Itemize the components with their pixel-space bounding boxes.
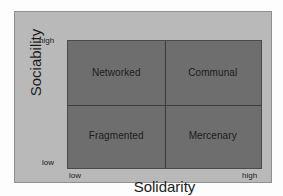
quadrant-mercenary[interactable]: Mercenary bbox=[165, 105, 262, 169]
quadrant-label: Fragmented bbox=[89, 131, 144, 141]
x-axis-title: Solidarity bbox=[67, 178, 262, 195]
quadrant-matrix: Networked Communal Fragmented Mercenary bbox=[67, 40, 262, 169]
y-axis-title: Sociability bbox=[27, 15, 44, 111]
diagram-frame: Sociability high low Networked Communal … bbox=[14, 11, 272, 183]
quadrant-label: Mercenary bbox=[189, 131, 237, 141]
quadrant-fragmented[interactable]: Fragmented bbox=[68, 105, 165, 169]
quadrant-communal[interactable]: Communal bbox=[165, 41, 262, 105]
y-axis-tick-high: high bbox=[39, 36, 54, 45]
quadrant-networked[interactable]: Networked bbox=[68, 41, 165, 105]
y-axis-tick-low: low bbox=[42, 158, 54, 167]
quadrant-label: Networked bbox=[92, 68, 141, 78]
diagram-canvas: Sociability high low Networked Communal … bbox=[0, 0, 283, 196]
quadrant-label: Communal bbox=[188, 68, 237, 78]
